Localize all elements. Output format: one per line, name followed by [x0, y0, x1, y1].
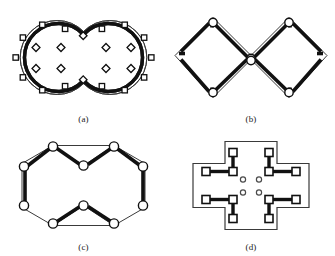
panel-a-caption: (a) [78, 115, 89, 128]
node-square [20, 75, 25, 80]
node-circle [240, 190, 245, 195]
node-square [40, 88, 45, 93]
node-square [13, 55, 18, 60]
member [254, 24, 288, 58]
member [181, 24, 209, 52]
node-square [292, 196, 300, 204]
member [293, 24, 321, 52]
node-square [229, 215, 237, 223]
node-diamond [32, 44, 40, 52]
node-square [20, 35, 25, 40]
panel-b-caption: (b) [245, 115, 256, 128]
figure-panel-grid: (a) [0, 0, 335, 256]
node-circle [240, 177, 245, 182]
panel-c-caption: (c) [78, 243, 89, 256]
member [88, 149, 111, 165]
node-circle [48, 142, 57, 151]
node-circle [285, 18, 293, 26]
panel-b-cusp-nodes [247, 56, 255, 64]
node-diamond [102, 65, 110, 73]
node-circle [247, 56, 255, 64]
panel-a-artwork [0, 0, 167, 115]
node-circle [209, 88, 217, 96]
member [254, 59, 288, 92]
node-circle [48, 219, 57, 228]
node-square [202, 196, 210, 204]
node-square [62, 26, 67, 31]
member [293, 60, 321, 92]
node-square [265, 215, 273, 223]
member [214, 59, 248, 92]
node-square [141, 75, 146, 80]
member [88, 207, 111, 222]
panel-d-connector-bottom-right [265, 196, 300, 223]
node-diamond [127, 44, 135, 52]
figure-panel-c: (c) [0, 128, 167, 256]
node-square [265, 149, 273, 157]
figure-panel-b: (b) [167, 0, 335, 128]
node-diamond [32, 65, 40, 73]
node-square [99, 84, 104, 89]
member [214, 24, 248, 58]
node-square [265, 196, 273, 204]
node-diamond [127, 65, 135, 73]
node-circle [138, 201, 147, 210]
node-circle [19, 201, 28, 210]
panel-d-connector-bottom-left [202, 196, 237, 223]
panel-a-inner-nodes-left [32, 44, 65, 73]
node-square [62, 84, 67, 89]
panel-d-artwork [167, 128, 335, 243]
member [181, 60, 209, 92]
node-circle [109, 219, 118, 228]
node-square [202, 168, 210, 176]
node-square [122, 22, 127, 27]
panel-c-artwork [0, 128, 167, 243]
node-circle [285, 88, 293, 96]
member [57, 207, 80, 222]
node-diamond [102, 44, 110, 52]
member [117, 149, 140, 166]
panel-d-caption: (d) [245, 243, 256, 256]
node-square [149, 55, 154, 60]
node-circle [109, 142, 118, 151]
panel-b-artwork [167, 0, 335, 115]
node-circle [19, 162, 28, 171]
member [28, 149, 50, 166]
node-diamond [57, 44, 65, 52]
node-circle [256, 177, 261, 182]
node-square [292, 168, 300, 176]
node-square [40, 22, 45, 27]
panel-d-connector-top-left [202, 149, 237, 176]
node-square [141, 35, 146, 40]
node-square [229, 149, 237, 157]
node-circle [79, 161, 88, 170]
panel-d-cross-outline [193, 142, 309, 230]
figure-panel-d: (d) [167, 128, 335, 256]
node-circle [138, 162, 147, 171]
node-circle [209, 18, 217, 26]
node-square [229, 168, 237, 176]
member [57, 149, 80, 165]
figure-panel-a: (a) [0, 0, 167, 128]
node-circle [256, 190, 261, 195]
panel-a-inner-nodes-right [102, 44, 135, 73]
node-square [99, 26, 104, 31]
node-square [265, 168, 273, 176]
node-square [122, 88, 127, 93]
panel-d-connector-top-right [265, 149, 300, 176]
node-circle [79, 201, 88, 210]
panel-d-inner-nodes [240, 177, 261, 195]
node-diamond [57, 65, 65, 73]
node-square [229, 196, 237, 204]
